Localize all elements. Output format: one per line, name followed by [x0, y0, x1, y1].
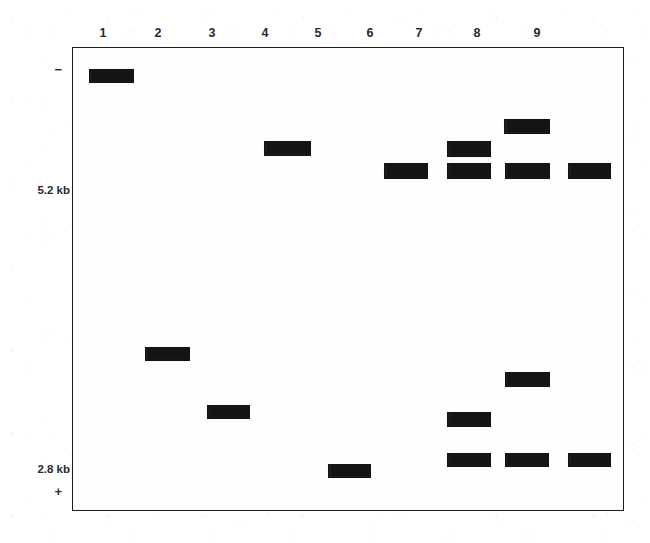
- dna-band-lane-7-2: [447, 163, 491, 179]
- gel-box: [72, 47, 624, 511]
- dna-band-lane-8-1: [504, 119, 550, 134]
- dna-band-lane-7-3: [447, 412, 491, 427]
- dna-band-lane-9-2: [568, 453, 611, 467]
- lane-number-label-9: 9: [522, 26, 552, 40]
- dna-band-lane-9-1: [568, 163, 611, 179]
- size-marker-label-2-8-kb: 2.8 kb: [18, 463, 70, 475]
- lane-number-label-7: 7: [404, 26, 434, 40]
- lane-number-label-4: 4: [250, 26, 280, 40]
- dna-band-lane-3-1: [207, 405, 250, 419]
- negative-electrode-marker: −: [18, 64, 62, 76]
- dna-band-lane-8-2: [505, 163, 550, 179]
- dna-band-lane-6-1: [384, 163, 428, 179]
- dna-band-lane-4-1: [264, 141, 311, 156]
- lane-number-label-3: 3: [197, 26, 227, 40]
- lane-number-label-6: 6: [355, 26, 385, 40]
- dna-band-lane-8-4: [505, 453, 549, 467]
- lane-number-label-8: 8: [462, 26, 492, 40]
- lane-number-label-1: 1: [88, 26, 118, 40]
- lane-number-label-5: 5: [303, 26, 333, 40]
- dna-band-lane-8-3: [505, 372, 550, 387]
- lane-number-label-2: 2: [143, 26, 173, 40]
- positive-electrode-marker: +: [18, 486, 62, 498]
- gel-electrophoresis-figure: 123456789 5.2 kb2.8 kb−+: [0, 0, 650, 543]
- dna-band-lane-2-1: [145, 347, 190, 361]
- dna-band-lane-1-1: [89, 69, 134, 83]
- dna-band-lane-5-1: [328, 464, 371, 478]
- dna-band-lane-7-1: [447, 141, 491, 157]
- size-marker-label-5-2-kb: 5.2 kb: [18, 184, 70, 196]
- dna-band-lane-7-4: [447, 453, 491, 467]
